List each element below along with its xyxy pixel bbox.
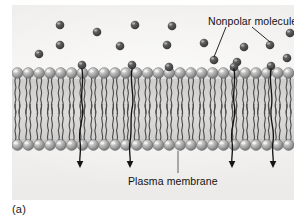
figure-panel-a: Nonpolar molecules Plasma membrane (a) [0, 0, 305, 224]
panel-caption: (a) [12, 203, 26, 215]
nonpolar-molecules-label: Nonpolar molecules [208, 15, 294, 27]
membrane-illustration [12, 5, 294, 200]
membrane-diagram-panel: Nonpolar molecules Plasma membrane [12, 5, 294, 200]
plasma-membrane-label: Plasma membrane [128, 175, 218, 187]
membrane-hydrophobic-core [12, 79, 294, 145]
nonpolar-molecule-group [35, 21, 294, 72]
